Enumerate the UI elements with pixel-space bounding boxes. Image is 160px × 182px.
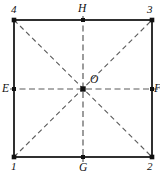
label-midpoint-right: F [154, 83, 160, 94]
label-corner-bottom-left: 1 [11, 161, 17, 172]
label-centre: O [90, 74, 98, 85]
vertex-marker-1 [12, 155, 17, 160]
geometry-figure: 4 3 1 2 H G E F O [0, 0, 160, 182]
label-corner-bottom-right: 2 [147, 161, 153, 172]
centre-marker-o [80, 86, 85, 91]
vertex-marker-4 [12, 18, 17, 23]
midpoint-marker-g [81, 155, 85, 159]
label-corner-top-right: 3 [147, 4, 153, 15]
label-midpoint-left: E [2, 83, 9, 94]
label-corner-top-left: 4 [11, 4, 17, 15]
figure-canvas [0, 0, 160, 182]
midpoint-marker-h [81, 18, 85, 22]
midpoint-marker-e [12, 87, 16, 91]
vertex-marker-3 [150, 18, 155, 23]
label-midpoint-bottom: G [79, 162, 87, 173]
label-midpoint-top: H [78, 3, 86, 14]
vertex-marker-2 [150, 155, 155, 160]
